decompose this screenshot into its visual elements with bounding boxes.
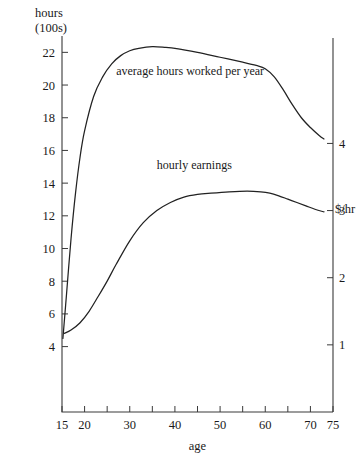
series-label-2: hourly earnings [157,158,232,172]
left-axis-tick-label: 8 [49,275,55,289]
left-axis-tick-label: 12 [43,209,56,223]
left-axis-tick-label: 16 [43,144,56,158]
left-axis-tick-label: 22 [43,46,56,60]
x-axis-tick-label: 40 [169,418,182,432]
x-axis-tick-label: 70 [304,418,317,432]
right-axis-tick-label: 1 [339,338,345,352]
left-axis-title-line1: hours [35,6,63,20]
x-axis-tick-label: 50 [214,418,227,432]
x-axis-tick-label: 75 [327,418,340,432]
right-axis-tick-label: 2 [339,271,345,285]
x-axis-tick-label: 60 [259,418,272,432]
left-axis-title-line2: (100s) [35,21,67,35]
x-axis-tick-label: 20 [78,418,91,432]
left-axis-tick-label: 4 [49,340,56,354]
chart-figure: 4681012141618202212341520304050607075hou… [0,0,360,467]
left-axis-tick-label: 18 [43,111,56,125]
line-chart: 4681012141618202212341520304050607075hou… [0,0,360,467]
series-line-1 [63,47,324,339]
x-axis-title: age [189,439,207,453]
x-axis-tick-label: 30 [124,418,137,432]
left-axis-tick-label: 20 [43,79,56,93]
left-axis-tick-label: 10 [43,242,56,256]
left-axis-tick-label: 6 [49,307,55,321]
right-axis-title: $/hr [335,202,356,216]
series-line-2 [64,191,324,333]
left-bottom-axis [62,36,333,412]
x-axis-tick-label: 15 [56,418,69,432]
series-label-1: average hours worked per year [116,64,264,78]
left-axis-tick-label: 14 [43,177,56,191]
right-axis-tick-label: 4 [339,137,346,151]
